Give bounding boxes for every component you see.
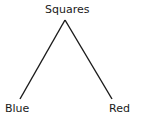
edge-root-red	[65, 20, 112, 99]
root-node-label: Squares	[45, 4, 89, 16]
child-node-label-blue: Blue	[5, 103, 29, 115]
edge-root-blue	[20, 20, 65, 99]
child-node-label-red: Red	[109, 103, 130, 115]
